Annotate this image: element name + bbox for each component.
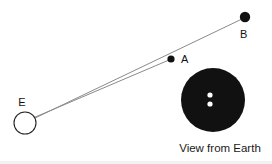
position-b-dot: [240, 12, 250, 22]
position-a-label: A: [181, 53, 189, 65]
sky-disk: [181, 68, 245, 132]
position-a-dot: [167, 55, 174, 62]
parallax-figure: E A B View from Earth: [0, 0, 272, 164]
figure-canvas: E A B View from Earth: [0, 0, 272, 164]
earth-label: E: [18, 96, 25, 108]
earth-circle: [14, 112, 36, 134]
sky-dot-lower: [207, 101, 212, 106]
position-b-label: B: [240, 28, 247, 40]
view-from-earth-caption: View from Earth: [179, 142, 261, 154]
sky-dot-upper: [207, 92, 212, 97]
bottom-edge-band: [0, 161, 272, 164]
